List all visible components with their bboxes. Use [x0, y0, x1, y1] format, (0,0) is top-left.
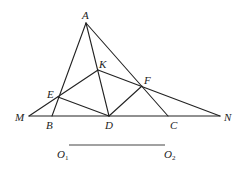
label-o1: O1 [57, 148, 69, 162]
segment-mk [29, 70, 98, 116]
label-o1-main: O [57, 148, 65, 160]
label-m: M [14, 111, 25, 123]
label-d: D [104, 119, 113, 131]
segment-ed [58, 97, 109, 116]
segment-ab [52, 23, 86, 116]
label-n: N [223, 111, 232, 123]
label-a: A [81, 9, 89, 21]
label-e: E [46, 88, 54, 100]
segment-df [109, 86, 142, 116]
label-o2-main: O [164, 148, 172, 160]
label-o2-sub: 2 [172, 154, 176, 162]
label-c: C [170, 119, 178, 131]
label-b: B [46, 119, 53, 131]
label-k: K [98, 58, 107, 70]
label-o1-sub: 1 [65, 154, 69, 162]
geometry-diagram: A K E F M B D C N O1 O2 [0, 0, 245, 172]
label-o2: O2 [164, 148, 176, 162]
label-f: F [143, 74, 151, 86]
